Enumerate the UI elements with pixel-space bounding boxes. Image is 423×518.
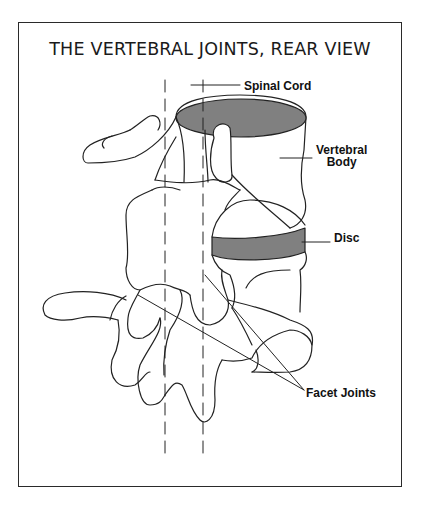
spinal-cord-dashed-lines — [165, 80, 203, 458]
label-disc: Disc — [334, 232, 359, 244]
lower-articular-processes — [128, 290, 313, 422]
lower-transverse-process — [43, 292, 150, 387]
label-vertebral-body: Vertebral Body — [316, 144, 367, 168]
label-facet-joints: Facet Joints — [306, 387, 376, 399]
label-vertebral-body-line2: Body — [316, 156, 367, 168]
vertebrae-illustration — [0, 0, 423, 518]
label-spinal-cord: Spinal Cord — [244, 80, 311, 92]
